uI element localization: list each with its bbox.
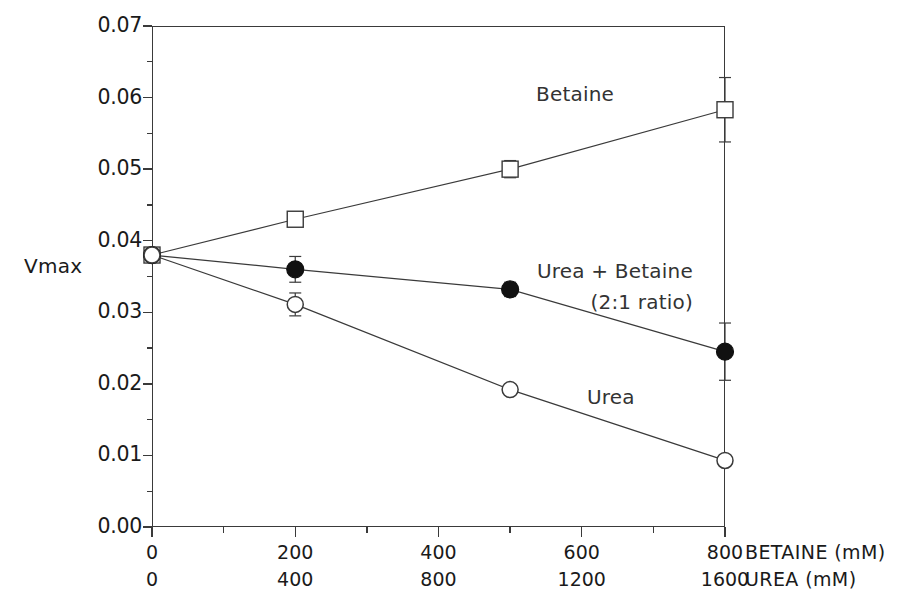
x-tick-label-urea: 800 [420,568,456,590]
series-label-betaine: Betaine [536,82,614,106]
figure-container: Vmax 0.000.010.020.030.040.050.060.07 02… [0,0,910,607]
x-tick-minor [653,527,654,533]
x-tick-label-urea: 1600 [701,568,749,590]
y-tick-minor [147,133,152,134]
y-tick-minor [147,419,152,420]
y-tick-label: 0.07 [98,13,142,37]
y-tick-minor [147,276,152,277]
x-tick-minor [366,527,367,533]
x-tick-label-urea: 400 [277,568,313,590]
y-tick-label: 0.02 [98,371,142,395]
series-label-urea: Urea [587,385,635,409]
x-tick-major [581,527,582,537]
y-tick-label: 0.06 [98,85,142,109]
series-label-urea-betaine: Urea + Betaine (2:1 ratio) [537,256,693,318]
y-tick-label: 0.04 [98,228,142,252]
y-tick-major [143,168,152,169]
y-tick-label: 0.03 [98,299,142,323]
x-tick-label-betaine: 400 [420,541,456,563]
y-axis-title: Vmax [24,254,82,278]
y-tick-label: 0.01 [98,442,142,466]
x-tick-major [151,527,152,537]
y-tick-minor [147,204,152,205]
series-label-urea-betaine-line2: (2:1 ratio) [537,287,693,318]
y-tick-major [143,240,152,241]
y-tick-major [143,383,152,384]
y-tick-minor [147,347,152,348]
x-tick-label-betaine: 600 [564,541,600,563]
x-tick-major [438,527,439,537]
x-axis-title-betaine: BETAINE (mM) [745,541,886,563]
x-tick-label-betaine: 800 [707,541,743,563]
y-tick-major [143,25,152,26]
x-tick-label-urea: 1200 [558,568,606,590]
y-tick-label: 0.05 [98,156,142,180]
y-tick-minor [147,491,152,492]
x-tick-minor [509,527,510,533]
series-label-urea-betaine-line1: Urea + Betaine [537,259,693,283]
x-tick-major [295,527,296,537]
y-tick-major [143,312,152,313]
y-tick-major [143,97,152,98]
x-tick-major [724,527,725,537]
y-tick-minor [147,61,152,62]
x-tick-minor [223,527,224,533]
y-tick-major [143,455,152,456]
x-tick-label-urea: 0 [146,568,158,590]
x-axis-title-urea: UREA (mM) [745,568,856,590]
y-tick-label: 0.00 [98,514,142,538]
x-tick-label-betaine: 200 [277,541,313,563]
x-tick-label-betaine: 0 [146,541,158,563]
